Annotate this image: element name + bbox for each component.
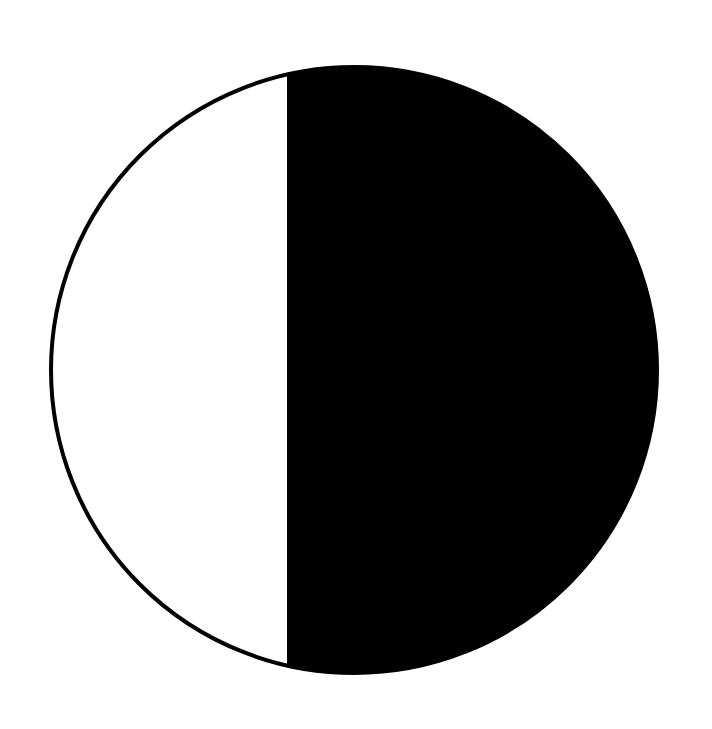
- dark-half: [287, 0, 712, 729]
- phase-diagram: [0, 0, 712, 729]
